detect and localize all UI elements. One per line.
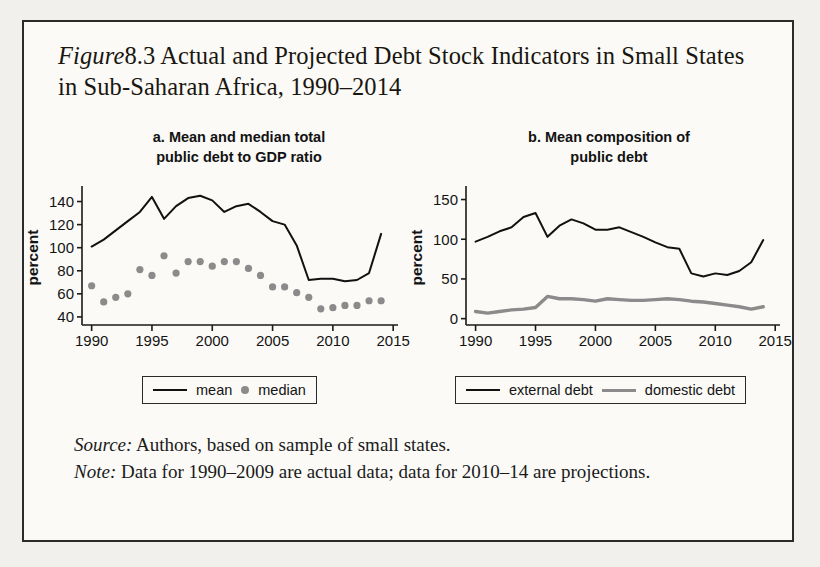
svg-text:1995: 1995: [519, 332, 552, 349]
legend-external-debt-label: external debt: [509, 382, 593, 398]
panel-b-title-line1: b. Mean composition of: [416, 128, 802, 148]
panel-a-title: a. Mean and median total public debt to …: [24, 128, 432, 167]
legend-median-label: median: [258, 382, 306, 398]
panel-a-title-line1: a. Mean and median total: [46, 128, 432, 148]
svg-text:100: 100: [49, 239, 74, 256]
svg-text:2010: 2010: [316, 332, 349, 349]
panel-b-title: b. Mean composition of public debt: [410, 128, 802, 167]
svg-text:80: 80: [57, 262, 74, 279]
svg-text:percent: percent: [410, 230, 425, 286]
legend-external-debt-line-icon: [466, 389, 500, 391]
panel-b-svg: 050100150199019952000200520102015percent: [410, 180, 796, 355]
source-text: Authors, based on sample of small states…: [136, 434, 451, 455]
svg-text:1990: 1990: [459, 332, 492, 349]
svg-text:1990: 1990: [75, 332, 108, 349]
panel-b: b. Mean composition of public debt 05010…: [410, 128, 796, 413]
svg-text:1995: 1995: [135, 332, 168, 349]
svg-text:100: 100: [433, 231, 458, 248]
svg-text:140: 140: [49, 193, 74, 210]
panel-a-legend: mean median: [142, 376, 317, 404]
figure-notes: Source: Authors, based on sample of smal…: [74, 432, 714, 486]
source-label: Source:: [74, 434, 132, 455]
panel-a-title-line2: public debt to GDP ratio: [46, 148, 432, 168]
svg-text:2000: 2000: [579, 332, 612, 349]
panel-b-title-line2: public debt: [416, 148, 802, 168]
svg-text:2015: 2015: [759, 332, 792, 349]
note-label: Note:: [74, 461, 116, 482]
svg-text:40: 40: [57, 308, 74, 325]
svg-text:0: 0: [450, 310, 458, 327]
svg-text:50: 50: [441, 270, 458, 287]
svg-text:60: 60: [57, 285, 74, 302]
panel-a: a. Mean and median total public debt to …: [24, 128, 410, 413]
legend-mean-label: mean: [196, 382, 232, 398]
panel-b-legend: external debt domestic debt: [455, 376, 746, 404]
source-line: Source: Authors, based on sample of smal…: [74, 432, 714, 459]
legend-domestic-debt-line-icon: [602, 389, 636, 392]
legend-mean-line-icon: [153, 389, 187, 391]
figure-page: Figure8.3 Actual and Projected Debt Stoc…: [0, 0, 820, 567]
svg-text:120: 120: [49, 216, 74, 233]
panels-container: a. Mean and median total public debt to …: [24, 128, 796, 413]
note-line: Note: Data for 1990–2009 are actual data…: [74, 459, 714, 486]
legend-median-dot-icon: [241, 386, 249, 394]
svg-text:2010: 2010: [699, 332, 732, 349]
panel-b-plot: 050100150199019952000200520102015percent: [410, 180, 796, 355]
svg-text:2005: 2005: [256, 332, 289, 349]
svg-text:2005: 2005: [639, 332, 672, 349]
svg-text:percent: percent: [24, 230, 41, 286]
legend-domestic-debt-label: domestic debt: [645, 382, 735, 398]
panel-a-plot: 406080100120140199019952000200520102015p…: [24, 180, 410, 355]
svg-text:150: 150: [433, 191, 458, 208]
figure-title-text: Actual and Projected Debt Stock Indicato…: [58, 42, 744, 100]
svg-text:2015: 2015: [376, 332, 409, 349]
note-text: Data for 1990–2009 are actual data; data…: [121, 461, 650, 482]
panel-a-svg: 406080100120140199019952000200520102015p…: [24, 180, 410, 355]
figure-label-number: 8.3: [124, 42, 155, 69]
figure-title: Figure8.3 Actual and Projected Debt Stoc…: [58, 40, 748, 103]
svg-text:2000: 2000: [196, 332, 229, 349]
figure-label-prefix: Figure: [58, 42, 124, 69]
